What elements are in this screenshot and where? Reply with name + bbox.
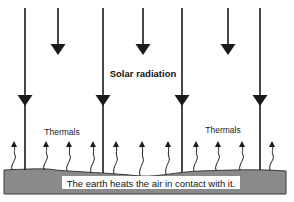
- thermals-label-left: Thermals: [44, 127, 79, 137]
- arrow-up-icon: [113, 141, 119, 147]
- thermal-wave: [166, 146, 170, 174]
- arrow-up-icon: [165, 141, 171, 147]
- thermal-arrow: [269, 141, 275, 170]
- thermal-wave: [91, 146, 95, 173]
- thermal-arrow: [165, 141, 171, 174]
- arrow-head-icon: [18, 95, 33, 106]
- thermal-wave: [114, 146, 118, 174]
- arrow-up-icon: [139, 141, 145, 147]
- arrow-head-icon: [51, 44, 66, 55]
- solar-arrow-short: [221, 8, 236, 55]
- solar-heating-diagram: The earth heats the air in contact with …: [0, 0, 294, 202]
- solar-arrow-long: [253, 8, 268, 170]
- arrow-head-icon: [175, 95, 190, 106]
- arrow-up-icon: [11, 141, 17, 147]
- thermal-wave: [140, 146, 144, 176]
- arrow-head-icon: [253, 95, 268, 106]
- caption-text: The earth heats the air in contact with …: [67, 178, 235, 189]
- thermals-label-right: Thermals: [205, 125, 240, 135]
- solar-arrow-long: [96, 8, 111, 173]
- arrow-head-icon: [96, 95, 111, 106]
- arrow-up-icon: [215, 141, 221, 147]
- thermal-wave: [216, 146, 220, 170]
- thermal-wave: [44, 146, 48, 170]
- solar-arrow-long: [175, 8, 190, 172]
- thermal-arrow: [66, 141, 72, 171]
- solar-radiation-label: Solar radiation: [110, 68, 177, 79]
- thermal-wave: [67, 146, 71, 171]
- arrow-up-icon: [269, 141, 275, 147]
- arrow-up-icon: [90, 141, 96, 147]
- thermal-arrow: [11, 141, 17, 170]
- thermal-arrow: [139, 141, 145, 176]
- solar-arrow-short: [51, 8, 66, 55]
- arrow-head-icon: [136, 44, 151, 55]
- thermal-wave: [240, 146, 244, 170]
- thermal-arrow: [90, 141, 96, 173]
- thermal-arrow: [239, 141, 245, 170]
- arrow-up-icon: [43, 141, 49, 147]
- solar-arrow-short: [136, 8, 151, 55]
- arrow-up-icon: [193, 141, 199, 147]
- arrow-up-icon: [239, 141, 245, 147]
- thermal-arrow: [43, 141, 49, 170]
- thermal-arrow: [215, 141, 221, 170]
- thermal-arrow: [193, 141, 199, 171]
- arrow-up-icon: [66, 141, 72, 147]
- thermal-wave: [12, 146, 16, 170]
- thermal-wave: [194, 146, 198, 171]
- arrow-head-icon: [221, 44, 236, 55]
- thermal-wave: [270, 146, 274, 170]
- thermal-arrow: [113, 141, 119, 174]
- solar-arrow-long: [18, 8, 33, 170]
